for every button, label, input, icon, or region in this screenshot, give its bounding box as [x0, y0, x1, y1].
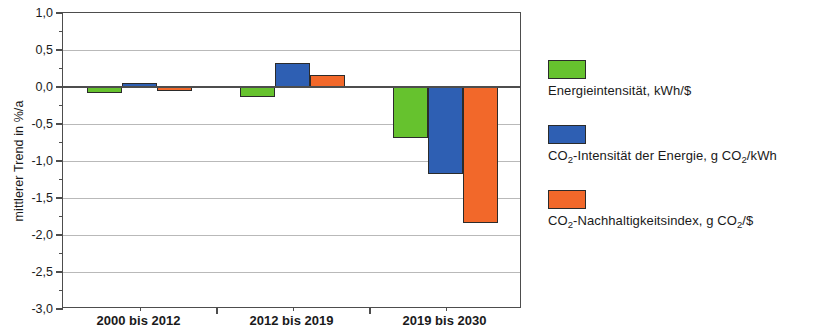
- legend-color-swatch: [548, 60, 586, 79]
- y-tick-mark: [56, 160, 63, 162]
- y-tick-label: -1,5: [31, 191, 53, 205]
- y-tick-mark: [56, 86, 63, 88]
- legend-entry[interactable]: Energieintensität, kWh/$: [548, 60, 691, 98]
- y-tick-label: -0,5: [31, 117, 53, 131]
- y-tick-mark: [56, 197, 63, 199]
- gridline: [63, 50, 520, 51]
- x-minor-tick-mark: [293, 307, 294, 311]
- y-minor-tick-mark: [59, 179, 63, 180]
- y-tick-label: -2,0: [31, 228, 53, 242]
- gridline: [63, 235, 520, 236]
- gridline: [63, 198, 520, 199]
- x-axis-category-label: 2012 bis 2019: [215, 313, 368, 328]
- y-tick-mark: [56, 308, 63, 310]
- y-minor-tick-mark: [59, 216, 63, 217]
- legend-entry[interactable]: CO2-Intensität der Energie, g CO2/kWh: [548, 125, 777, 163]
- y-tick-label: -3,0: [31, 302, 53, 316]
- bar-chart-figure: mittlerer Trend in %/a 1,00,50,0-0,5-1,0…: [0, 0, 840, 333]
- y-tick-mark: [56, 234, 63, 236]
- y-minor-tick-mark: [59, 253, 63, 254]
- y-minor-tick-mark: [59, 68, 63, 69]
- x-minor-tick-mark: [140, 307, 141, 311]
- y-tick-label: 0,5: [36, 43, 53, 57]
- legend-entry[interactable]: CO2-Nachhaltigkeitsindex, g CO2/$: [548, 190, 753, 228]
- x-axis-category-label: 2000 bis 2012: [62, 313, 215, 328]
- legend-label: Energieintensität, kWh/$: [548, 83, 691, 98]
- gridline: [63, 272, 520, 273]
- y-tick-mark: [56, 123, 63, 125]
- y-minor-tick-mark: [59, 105, 63, 106]
- zero-baseline: [63, 86, 520, 88]
- x-axis-category-label: 2019 bis 2030: [368, 313, 521, 328]
- y-tick-label: -2,5: [31, 265, 53, 279]
- y-minor-tick-mark: [59, 31, 63, 32]
- y-tick-label: 0,0: [36, 80, 53, 94]
- y-tick-label: -1,0: [31, 154, 53, 168]
- y-minor-tick-mark: [59, 290, 63, 291]
- bar: [428, 87, 463, 174]
- legend-color-swatch: [548, 190, 586, 209]
- legend-color-swatch: [548, 125, 586, 144]
- y-tick-mark: [56, 271, 63, 273]
- y-tick-mark: [56, 12, 63, 14]
- y-minor-tick-mark: [59, 142, 63, 143]
- plot-area: 1,00,50,0-0,5-1,0-1,5-2,0-2,5-3,0: [62, 12, 521, 308]
- bar: [240, 87, 275, 97]
- x-minor-tick-mark: [446, 307, 447, 311]
- y-axis-title: mittlerer Trend in %/a: [12, 46, 26, 276]
- legend-label: CO2-Nachhaltigkeitsindex, g CO2/$: [548, 213, 753, 228]
- y-tick-label: 1,0: [36, 6, 53, 20]
- bar: [393, 87, 428, 138]
- bar: [275, 63, 310, 87]
- y-tick-mark: [56, 49, 63, 51]
- legend-label: CO2-Intensität der Energie, g CO2/kWh: [548, 148, 777, 163]
- bar: [463, 87, 498, 223]
